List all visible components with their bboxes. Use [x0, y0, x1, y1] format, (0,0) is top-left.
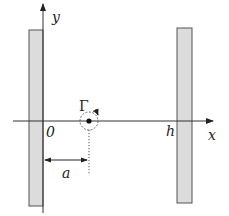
origin-label: 0 [46, 124, 55, 140]
a-label: a [62, 165, 70, 181]
diagram-canvas: y x 0 h Γ a [0, 0, 229, 216]
vortex-point [86, 118, 91, 123]
right-wall [177, 28, 192, 203]
y-axis-label: y [51, 9, 61, 25]
left-wall [29, 30, 43, 206]
gamma-label: Γ [79, 98, 89, 114]
h-label: h [166, 123, 175, 139]
x-axis-label: x [208, 127, 216, 143]
